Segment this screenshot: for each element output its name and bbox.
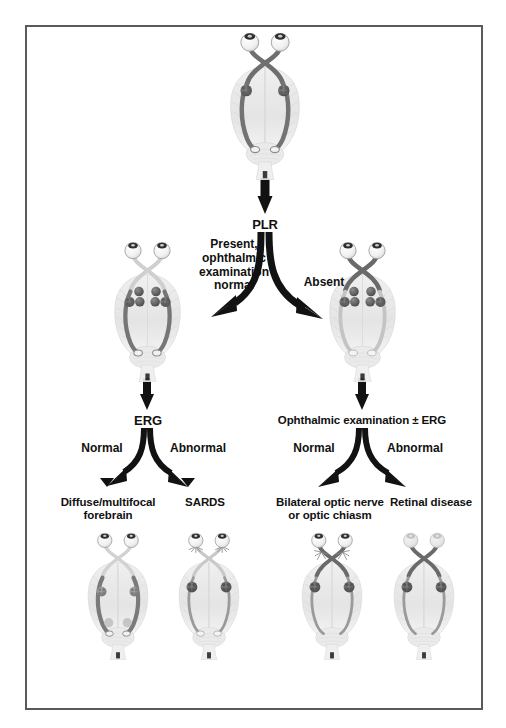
- node-diffuse-line2: forebrain: [54, 509, 162, 522]
- illustration-bottom-optic-nerve-chiasm: [290, 528, 374, 660]
- edge-label-plr-present-line4: normal: [186, 279, 282, 293]
- illustration-bottom-retinal-disease: [382, 528, 466, 660]
- edge-label-plr-present-line3: examination: [186, 266, 282, 280]
- illustration-mid-left-plr-present: [101, 237, 194, 382]
- eye-right-icon: [430, 533, 444, 547]
- flowchart-figure: PLR Present, ophthalmic examination norm…: [0, 0, 506, 728]
- eye-right-icon: [124, 533, 138, 547]
- node-diffuse-line1: Diffuse/multifocal: [54, 496, 162, 509]
- edge-label-plr-present-line1: Present,: [186, 238, 282, 252]
- edge-label-ophth-abnormal: Abnormal: [375, 442, 455, 456]
- edge-label-plr-present-line2: ophthalmic: [186, 252, 282, 266]
- edge-label-plr-absent: Absent: [288, 276, 360, 290]
- node-bilateral-line2: or optic chiasm: [262, 509, 398, 522]
- node-diffuse-multifocal-forebrain: Diffuse/multifocal forebrain: [54, 496, 162, 522]
- eye-left-icon: [98, 533, 112, 547]
- edge-label-erg-abnormal: Abnormal: [158, 442, 238, 456]
- illustration-top-visual-pathway: [216, 28, 314, 180]
- eye-left-icon: [312, 533, 326, 547]
- eye-left-icon: [125, 243, 141, 259]
- edge-label-plr-present: Present, ophthalmic examination normal: [186, 238, 282, 293]
- eye-right-icon: [154, 243, 170, 259]
- illustration-bottom-diffuse-forebrain: [76, 528, 160, 660]
- eye-right-icon: [338, 533, 352, 547]
- illustration-mid-right-plr-absent: [316, 237, 409, 382]
- illustration-bottom-sards: [167, 528, 251, 660]
- eye-right-icon: [369, 243, 385, 259]
- eye-left-icon: [189, 533, 203, 547]
- node-retinal-disease: Retinal disease: [378, 496, 484, 509]
- node-erg: ERG: [118, 414, 178, 429]
- eye-left-icon: [241, 33, 259, 51]
- edge-label-erg-normal: Normal: [66, 442, 138, 456]
- node-ophthalmic-exam-erg: Ophthalmic examination ± ERG: [267, 414, 457, 427]
- eye-left-icon: [404, 533, 418, 547]
- node-plr: PLR: [235, 218, 295, 233]
- eye-right-icon: [271, 33, 289, 51]
- eye-right-icon: [215, 533, 229, 547]
- edge-label-ophth-normal: Normal: [278, 442, 350, 456]
- node-sards: SARDS: [160, 496, 250, 509]
- eye-left-icon: [340, 243, 356, 259]
